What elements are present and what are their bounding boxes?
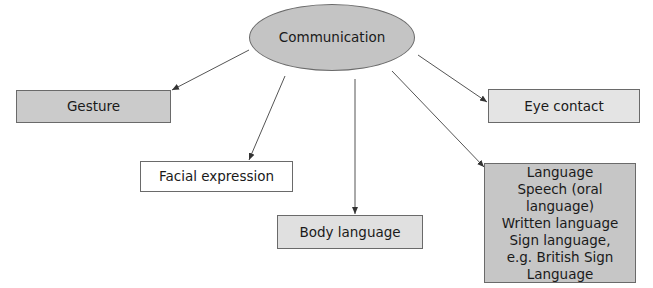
node-label: Facial expression xyxy=(159,168,274,185)
language-line: Speech (oral language) xyxy=(485,181,635,215)
language-line: Sign language, xyxy=(510,232,611,249)
root-label: Communication xyxy=(279,29,385,46)
language-line: Language xyxy=(527,266,594,283)
node-label: Eye contact xyxy=(524,98,604,115)
node-facial-expression: Facial expression xyxy=(140,161,293,192)
edge-facial xyxy=(249,76,285,160)
edge-language xyxy=(392,71,484,167)
root-node-communication: Communication xyxy=(249,4,415,71)
language-line: Written language xyxy=(502,215,619,232)
edge-eye xyxy=(418,55,487,102)
node-label: Gesture xyxy=(67,98,120,115)
language-line: Language xyxy=(527,164,594,181)
language-line: e.g. British Sign xyxy=(507,249,614,266)
node-label: Body language xyxy=(299,224,400,241)
node-language: Language Speech (oral language) Written … xyxy=(484,163,636,283)
node-gesture: Gesture xyxy=(16,90,171,123)
edge-gesture xyxy=(172,50,249,90)
node-eye-contact: Eye contact xyxy=(488,89,640,123)
node-body-language: Body language xyxy=(277,215,423,249)
